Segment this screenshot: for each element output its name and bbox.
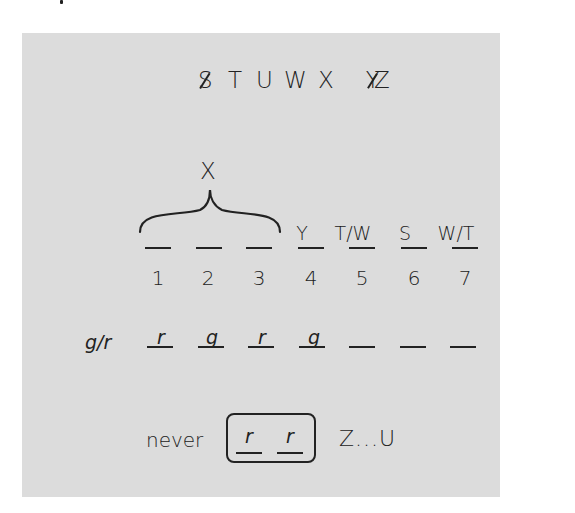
gr-blank-6 [400,346,426,348]
boxed-value-2: r [275,425,305,447]
slot-5-blank [349,247,375,249]
gr-blank-4 [299,346,325,348]
letter-w: W [284,67,307,93]
position-6: 6 [399,266,429,290]
gr-value-1: r [146,326,176,348]
slot-6-value: S [385,222,425,244]
slot-6-blank [401,247,427,249]
gr-row-label: g/r [85,331,111,353]
slot-2-blank [196,247,222,249]
gr-blank-3 [248,346,274,348]
gr-value-4: g [299,326,329,348]
position-7: 7 [450,266,480,290]
position-1: 1 [143,266,173,290]
gr-blank-2 [198,346,224,348]
slot-5-value: T/W [333,222,373,244]
gr-value-2: g [197,326,227,348]
position-5: 5 [347,266,377,290]
slot-7-blank [452,247,478,249]
gr-value-3: r [247,326,277,348]
curly-brace-icon [138,188,283,238]
gr-blank-1 [147,346,173,348]
boxed-blank-2 [277,452,303,454]
slot-7-value: W/T [436,222,476,244]
letter-z: Z [374,67,390,93]
position-4: 4 [296,266,326,290]
position-2: 2 [193,266,223,290]
alphabet-row: S T U W X Y Z [0,0,575,26]
gr-blank-5 [349,346,375,348]
letter-u: U [256,67,273,93]
position-3: 3 [244,266,274,290]
rule-prefix: never [146,428,203,452]
boxed-blank-1 [236,452,262,454]
letter-t: T [228,67,242,93]
gr-blank-7 [450,346,476,348]
rule-suffix: Z...U [339,426,396,452]
brace-label: X [200,158,216,184]
corner-mark [60,0,63,4]
slot-4-value: Y [282,222,322,244]
letter-s-crossed: S [198,67,213,93]
slot-1-blank [145,247,171,249]
boxed-value-1: r [234,425,264,447]
slot-4-blank [298,247,324,249]
letter-x: X [318,67,334,93]
slot-3-blank [246,247,272,249]
